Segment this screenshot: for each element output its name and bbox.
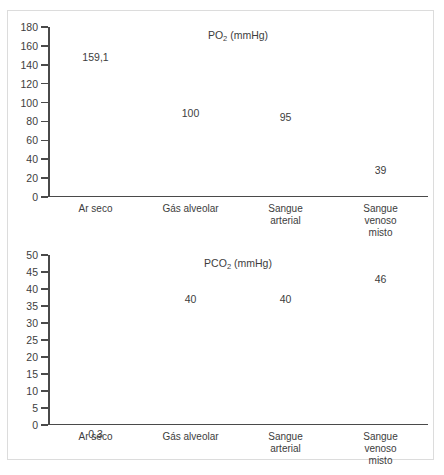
y-axis-line-pco2 [48,255,50,425]
y-tick-label-pco2-45: 45 [26,267,38,278]
y-tick-label-pco2-10: 10 [26,386,38,397]
y-tick-label-pco2-0: 0 [32,420,38,431]
y-tick-pco2-15 [41,373,48,375]
chart-title-pco2-subscript: 2 [227,262,231,271]
chart-title-po2-units: (mmHg) [227,29,268,41]
chart-title-po2-text: PO [208,29,223,41]
x-axis-line-po2 [48,196,428,198]
y-tick-label-pco2-40: 40 [26,284,38,295]
y-tick-pco2-35 [41,305,48,307]
y-tick-label-pco2-30: 30 [26,318,38,329]
y-tick-pco2-45 [41,271,48,273]
y-tick-label-po2-40: 40 [26,154,38,165]
figure-frame: PO2 (mmHg) 180160140120100806040200 159,… [7,10,434,460]
x-category-label-pco2-3: Sangue venoso misto [357,431,405,467]
y-tick-pco2-5 [41,407,48,409]
y-tick-po2-140 [41,64,48,66]
chart-po2: PO2 (mmHg) 180160140120100806040200 159,… [8,11,435,236]
x-category-label-po2-1: Gás alveolar [162,203,218,215]
y-tick-label-pco2-15: 15 [26,369,38,380]
y-tick-po2-180 [41,26,48,28]
y-tick-label-pco2-50: 50 [26,250,38,261]
y-axis-line-po2 [48,27,50,197]
x-category-label-pco2-2: Sangue arterial [268,431,302,455]
y-tick-label-po2-80: 80 [26,116,38,127]
chart-title-po2-subscript: 2 [223,34,227,43]
x-axis-line-pco2 [48,424,428,426]
x-category-label-pco2-1: Gás alveolar [162,431,218,443]
data-value-label-pco2-2: 40 [280,294,292,305]
y-tick-label-po2-120: 120 [20,78,38,89]
y-tick-pco2-0 [41,424,48,426]
data-value-label-po2-2: 95 [280,112,292,123]
data-value-label-po2-1: 100 [182,107,200,118]
y-tick-pco2-40 [41,288,48,290]
y-tick-label-pco2-35: 35 [26,301,38,312]
y-tick-pco2-30 [41,322,48,324]
y-tick-po2-0 [41,196,48,198]
y-tick-label-po2-160: 160 [20,41,38,52]
y-tick-label-pco2-5: 5 [32,403,38,414]
y-tick-po2-160 [41,45,48,47]
chart-title-po2: PO2 (mmHg) [73,29,403,41]
data-value-label-pco2-3: 46 [375,273,387,284]
y-tick-po2-80 [41,121,48,123]
y-tick-po2-120 [41,83,48,85]
x-category-row-pco2: Ar secoGás alveolarSangue arterialSangue… [48,431,428,461]
y-tick-label-pco2-25: 25 [26,335,38,346]
y-tick-label-po2-140: 140 [20,60,38,71]
data-value-label-po2-0: 159,1 [82,51,108,62]
plot-area-pco2: PCO2 (mmHg) 50454035302520151050 0,34040… [48,255,428,425]
y-tick-po2-60 [41,140,48,142]
chart-title-pco2: PCO2 (mmHg) [73,257,403,269]
y-tick-label-po2-100: 100 [20,97,38,108]
y-tick-label-pco2-20: 20 [26,352,38,363]
x-category-row-po2: Ar secoGás alveolarSangue arterialSangue… [48,203,428,233]
data-value-label-pco2-1: 40 [185,294,197,305]
y-tick-pco2-10 [41,390,48,392]
y-tick-pco2-25 [41,339,48,341]
chart-pco2: PCO2 (mmHg) 50454035302520151050 0,34040… [8,239,435,461]
y-tick-pco2-50 [41,254,48,256]
y-tick-po2-40 [41,158,48,160]
x-category-label-po2-3: Sangue venoso misto [357,203,405,239]
chart-title-pco2-units: (mmHg) [231,257,272,269]
y-tick-po2-20 [41,177,48,179]
y-tick-label-po2-180: 180 [20,22,38,33]
chart-title-pco2-text: PCO [204,257,227,269]
y-tick-po2-100 [41,102,48,104]
data-value-label-po2-3: 39 [375,165,387,176]
plot-area-po2: PO2 (mmHg) 180160140120100806040200 159,… [48,27,428,197]
y-tick-pco2-20 [41,356,48,358]
x-category-label-po2-2: Sangue arterial [268,203,302,227]
y-tick-label-po2-0: 0 [32,192,38,203]
y-tick-label-po2-20: 20 [26,173,38,184]
x-category-label-pco2-0: Ar seco [79,431,113,443]
y-tick-label-po2-60: 60 [26,135,38,146]
x-category-label-po2-0: Ar seco [79,203,113,215]
